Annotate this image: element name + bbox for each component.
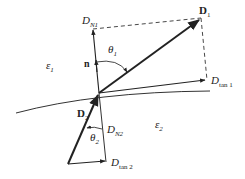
Dtan2-vector (68, 161, 105, 164)
theta2-arc (87, 127, 102, 129)
dashed-right-line (201, 18, 207, 80)
interface-boundary (16, 91, 210, 113)
D2-vector (68, 95, 98, 164)
label-DN2: DN2 (106, 123, 124, 138)
dashed-top-line (93, 18, 201, 29)
theta1-arc (96, 61, 127, 72)
label-epsilon1: ε1 (46, 59, 54, 74)
label-n: n (84, 58, 90, 69)
label-D2: D2 (77, 107, 89, 122)
interface-diagram: DN1 D1 n θ1 ε1 Dtan 1 D2 θ2 DN2 ε2 Dtan … (0, 0, 245, 179)
label-D1: D1 (199, 4, 211, 19)
label-epsilon2: ε2 (155, 118, 163, 133)
label-Dtan2: Dtan 2 (110, 156, 133, 171)
DN2-line (99, 93, 106, 162)
label-Dtan1: Dtan 1 (210, 74, 233, 89)
label-DN1: DN1 (81, 14, 98, 29)
label-theta2: θ2 (90, 131, 99, 146)
label-theta1: θ1 (108, 43, 117, 58)
